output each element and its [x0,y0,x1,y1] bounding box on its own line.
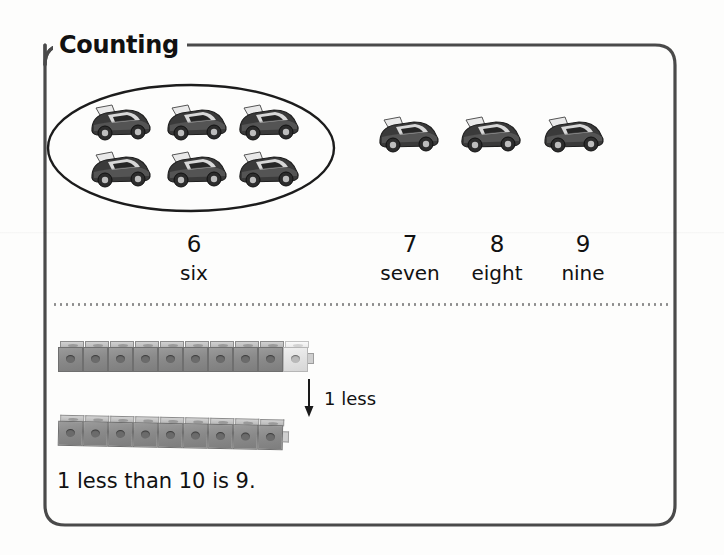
toy-car-icon [158,98,232,144]
one-less-arrow-group: 1 less [303,378,376,418]
number-word-nine: nine [538,259,628,287]
count-label-eight: 8 eight [452,229,542,287]
cube [183,341,209,372]
dotted-divider [52,303,672,306]
cube-train-nine [58,415,284,451]
cube [158,341,184,372]
numeral-eight: 8 [452,229,542,259]
toy-car-icon [82,145,156,191]
cube [208,341,234,372]
numeral-nine: 9 [538,229,628,259]
one-less-label: 1 less [324,388,376,409]
cube [133,416,160,448]
toy-car-icon [452,110,526,156]
cube [83,415,110,447]
number-word-six: six [149,259,239,287]
toy-car-icon [230,145,304,191]
cube [108,341,134,372]
number-word-eight: eight [452,259,542,287]
cube [58,415,85,447]
cube [183,417,210,449]
numeral-seven: 7 [365,229,455,259]
cube [233,341,259,372]
cube [133,341,159,372]
cube-train-ten [58,341,308,372]
numeral-six: 6 [149,229,239,259]
toy-car-icon [158,145,232,191]
toy-car-icon [82,98,156,144]
section-title: Counting [53,31,187,59]
count-label-seven: 7 seven [365,229,455,287]
toy-car-icon [535,110,609,156]
toy-car-icon [230,98,304,144]
cube [108,416,135,448]
cube [158,417,185,449]
sentence-one-less-than-ten: 1 less than 10 is 9. [57,469,256,493]
count-label-nine: 9 nine [538,229,628,287]
worksheet-page: Counting [0,0,724,555]
count-label-six: 6 six [149,229,239,287]
cube [258,419,285,451]
cube [83,341,109,372]
cube [258,341,284,372]
number-word-seven: seven [365,259,455,287]
toy-car-icon [370,110,444,156]
cube [233,418,260,450]
toy-car-group-circled [45,82,337,214]
cube [283,341,309,372]
cube [58,341,84,372]
cube [208,418,235,450]
arrow-down-icon [303,378,315,418]
